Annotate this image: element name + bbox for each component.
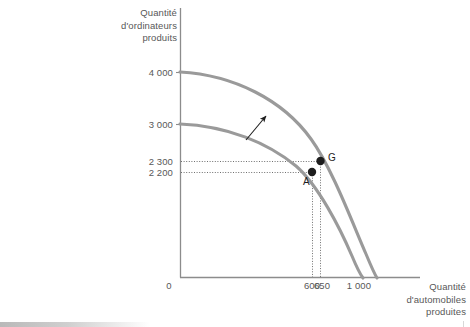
data-point-a (308, 168, 316, 176)
page-edge-tick (463, 321, 464, 327)
ppf-chart-figure: Quantité d'ordinateurs produits Quantité… (0, 0, 470, 327)
chart-canvas (0, 0, 470, 327)
point-label-a: A (303, 176, 310, 187)
y-axis-title: Quantité d'ordinateurs produits (108, 7, 177, 45)
page-edge-band (0, 322, 150, 327)
growth-arrow-icon (246, 116, 266, 140)
ppf-curve-initial (180, 124, 363, 278)
y-tick-label-4000: 4 000 (133, 67, 173, 78)
y-tick-label-2300: 2 300 (133, 156, 173, 167)
y-tick-label-2200: 2 200 (133, 167, 173, 178)
point-label-g: G (328, 152, 336, 163)
data-point-g (316, 157, 324, 165)
origin-label: 0 (160, 280, 178, 291)
y-tick-label-3000: 3 000 (133, 119, 173, 130)
x-tick-label-1000: 1 000 (339, 280, 379, 291)
x-tick-label-650: 650 (302, 280, 342, 291)
x-axis-title: Quantité d'automobiles produites (378, 281, 466, 319)
